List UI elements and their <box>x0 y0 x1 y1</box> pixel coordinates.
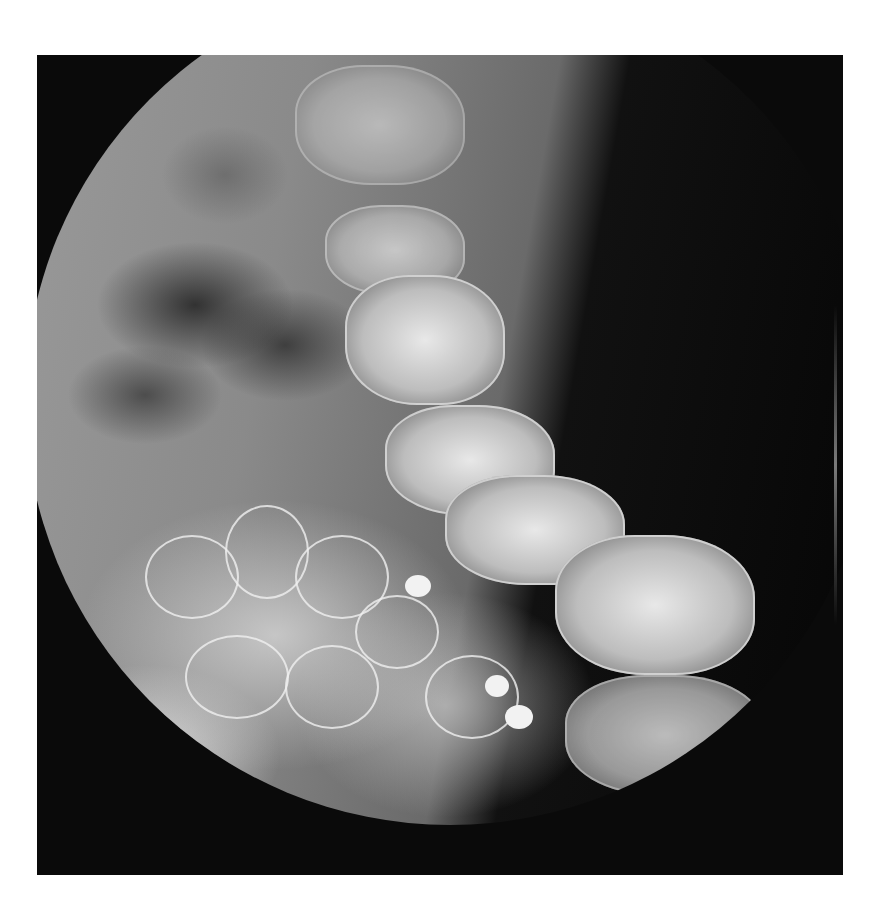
vertebra-3 <box>345 275 505 405</box>
radiograph-frame <box>37 55 843 875</box>
haustral-fold <box>185 635 289 719</box>
vertebra-1 <box>295 65 465 185</box>
haustral-fold <box>285 645 379 729</box>
contrast-droplet <box>405 575 431 597</box>
haustral-fold <box>355 595 439 669</box>
haustral-fold <box>425 655 519 739</box>
contrast-droplet <box>505 705 533 729</box>
edge-artifact-line <box>834 305 837 625</box>
circular-field-of-view <box>37 55 843 825</box>
contrast-droplet <box>485 675 509 697</box>
